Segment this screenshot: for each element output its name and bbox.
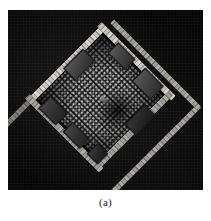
figure-container: (a) (0, 0, 211, 221)
figure-caption: (a) (0, 196, 211, 208)
scene-image (8, 10, 203, 190)
